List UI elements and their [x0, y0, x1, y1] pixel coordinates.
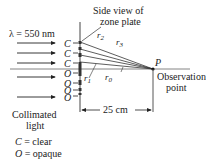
zone-plate-label-line1: Side view of	[93, 5, 144, 16]
collimated-light-arrows	[17, 43, 55, 97]
observation-label-line1: Observation	[157, 71, 206, 82]
ray-label-r0: r0	[105, 72, 113, 84]
point-label-p: P	[154, 57, 161, 68]
legend-opaque: O = opaque	[15, 148, 62, 159]
observation-label-line2: point	[166, 82, 187, 93]
distance-label: 25 cm	[103, 104, 128, 115]
zone-plate-label-line2: zone plate	[100, 16, 141, 27]
source-label-line1: Collimated	[12, 109, 56, 120]
legend-clear: C = clear	[15, 136, 52, 147]
ray-label-r3: r3	[116, 37, 124, 49]
ray-label-r2: r2	[97, 30, 105, 42]
wavelength-label: λ = 550 nm	[9, 28, 55, 39]
source-label-line2: light	[26, 120, 45, 131]
zone-plate-diagram: C C C O O O O λ = 550 nm Side view of zo…	[0, 0, 206, 165]
zone-label-7: O	[64, 92, 71, 103]
ray-label-r1: r1	[84, 73, 91, 85]
zone-labels: C C C O O O O	[64, 38, 71, 103]
